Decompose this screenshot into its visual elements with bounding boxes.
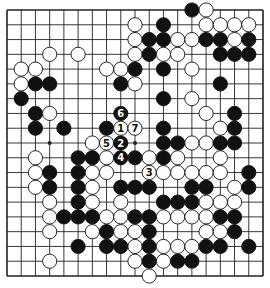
black-stone [99, 121, 113, 135]
stone-disc [114, 210, 128, 224]
black-stone [227, 121, 241, 135]
stone-disc [199, 225, 213, 239]
white-stone [43, 106, 57, 120]
stone-disc [28, 106, 42, 120]
white-stone [199, 165, 213, 179]
white-stone: 7 [128, 121, 142, 135]
stone-disc [185, 136, 199, 150]
stone-disc [128, 32, 142, 46]
stone-disc [128, 254, 142, 268]
stone-disc [213, 136, 227, 150]
black-stone [43, 77, 57, 91]
black-stone [242, 32, 256, 46]
white-stone [85, 136, 99, 150]
stone-disc [43, 77, 57, 91]
stone-disc [71, 151, 85, 165]
stone-disc [156, 151, 170, 165]
stone-disc [114, 239, 128, 253]
stone-disc [171, 254, 185, 268]
black-stone [14, 92, 28, 106]
stone-disc [142, 225, 156, 239]
white-stone: 3 [142, 165, 156, 179]
stone-disc [142, 180, 156, 194]
black-stone [114, 239, 128, 253]
white-stone [185, 136, 199, 150]
stone-disc [213, 210, 227, 224]
stone-disc [128, 77, 142, 91]
black-stone [199, 32, 213, 46]
stone-disc [242, 239, 256, 253]
move-number-label: 5 [103, 138, 110, 149]
white-stone [199, 18, 213, 32]
stone-disc [242, 18, 256, 32]
black-stone [142, 210, 156, 224]
white-stone [128, 239, 142, 253]
white-stone [43, 225, 57, 239]
stone-disc [171, 195, 185, 209]
stone-disc [71, 195, 85, 209]
stone-disc [28, 121, 42, 135]
stone-disc [185, 92, 199, 106]
white-stone [142, 151, 156, 165]
stone-disc [199, 32, 213, 46]
stone-disc [185, 3, 199, 17]
black-stone [28, 77, 42, 91]
black-stone [85, 151, 99, 165]
white-stone [227, 195, 241, 209]
white-stone [185, 165, 199, 179]
stone-disc [43, 47, 57, 61]
stone-disc [156, 92, 170, 106]
stone-disc [71, 239, 85, 253]
black-stone [227, 136, 241, 150]
stone-disc [114, 62, 128, 76]
black-stone [71, 180, 85, 194]
white-stone [128, 47, 142, 61]
black-stone [171, 136, 185, 150]
black-stone [99, 225, 113, 239]
stone-disc [185, 165, 199, 179]
stone-disc [99, 225, 113, 239]
black-stone [142, 225, 156, 239]
black-stone [227, 106, 241, 120]
stone-disc [185, 254, 199, 268]
black-stone: 4 [114, 151, 128, 165]
black-stone [28, 121, 42, 135]
stone-disc [156, 254, 170, 268]
black-stone [185, 180, 199, 194]
black-stone [199, 239, 213, 253]
white-stone [43, 47, 57, 61]
white-stone [156, 210, 170, 224]
stone-disc [227, 121, 241, 135]
white-stone [185, 92, 199, 106]
black-stone [185, 3, 199, 17]
stone-disc [128, 239, 142, 253]
stone-disc [213, 239, 227, 253]
stone-disc [213, 18, 227, 32]
white-stone [71, 47, 85, 61]
stone-disc [185, 239, 199, 253]
stone-disc [227, 106, 241, 120]
stone-disc [199, 136, 213, 150]
white-stone [185, 62, 199, 76]
white-stone [185, 210, 199, 224]
black-stone [114, 180, 128, 194]
stone-disc [71, 210, 85, 224]
stone-disc [99, 121, 113, 135]
stone-disc [199, 180, 213, 194]
white-stone [85, 180, 99, 194]
black-stone [128, 210, 142, 224]
black-stone [213, 136, 227, 150]
black-stone [185, 254, 199, 268]
move-number-label: 3 [146, 167, 153, 178]
black-stone [156, 136, 170, 150]
stone-disc [156, 32, 170, 46]
white-stone [85, 225, 99, 239]
black-stone [71, 239, 85, 253]
stone-disc [114, 195, 128, 209]
stone-disc [57, 121, 71, 135]
move-number-label: 1 [117, 123, 124, 134]
white-stone [213, 225, 227, 239]
white-stone [199, 210, 213, 224]
white-stone [28, 180, 42, 194]
white-stone [199, 3, 213, 17]
